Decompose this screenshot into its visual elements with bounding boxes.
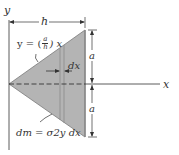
mass-element-label: dm = σ2y dx xyxy=(16,128,81,138)
a-arrow-mid-down-icon xyxy=(90,85,94,90)
y-axis-label: y xyxy=(4,5,10,16)
a-upper-label: a xyxy=(89,51,95,61)
dx-label: dx xyxy=(68,61,80,71)
edge-equation-rhs: ) x xyxy=(49,39,62,49)
a-arrow-mid-up-icon xyxy=(90,78,94,83)
mass-element-leader-line xyxy=(40,114,52,122)
h-arrow-left-icon xyxy=(9,20,14,24)
edge-equation-denominator: h xyxy=(43,44,48,51)
equation-leader-line xyxy=(35,54,38,62)
triangular-plate-diagram: y x h a a dx y = ( a h ) x dm = σ2y dx xyxy=(0,0,179,155)
a-arrow-top-icon xyxy=(90,30,94,35)
edge-equation: y = ( a h ) x xyxy=(17,36,62,51)
a-arrow-bottom-icon xyxy=(90,132,94,137)
edge-equation-lhs: y = ( xyxy=(17,39,41,49)
x-axis-label: x xyxy=(163,79,169,90)
edge-equation-fraction: a h xyxy=(42,36,48,51)
h-label: h xyxy=(41,16,48,27)
a-lower-label: a xyxy=(89,104,95,114)
h-arrow-right-icon xyxy=(80,20,85,24)
